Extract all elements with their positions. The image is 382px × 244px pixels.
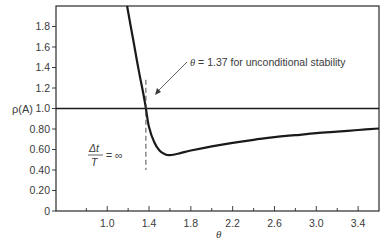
series	[56, 6, 379, 155]
y-tick-label: 0.40	[30, 164, 51, 176]
x-tick-label: 1.4	[142, 217, 157, 229]
annotation-body: = 1.37 for unconditional stability	[195, 56, 346, 68]
y-tick-label: 1.2	[35, 82, 50, 94]
y-tick-label: 0.20	[30, 184, 51, 196]
x-tick-label: 1.0	[100, 217, 115, 229]
dt-over-t-annotation: Δt T = ∞	[88, 142, 123, 168]
y-tick-label: 1.8	[35, 20, 50, 32]
y-tick-label: 1.6	[35, 41, 50, 53]
y-axis-label: ρ(A)	[12, 103, 33, 115]
x-axis: 1.01.41.82.22.63.03.4	[86, 206, 365, 229]
y-tick-label: 0	[44, 205, 50, 217]
chart: 00.200.400.600.801.01.21.41.61.8 1.01.41…	[0, 0, 382, 244]
fraction-equals-infinity: = ∞	[106, 149, 123, 161]
y-tick-label: 1.0	[35, 102, 50, 114]
stability-annotation: θ = 1.37 for unconditional stability	[155, 56, 346, 95]
annotation-arrow-line	[157, 62, 187, 92]
x-tick-label: 2.2	[225, 217, 240, 229]
y-tick-label: 1.4	[35, 61, 50, 73]
x-axis-label: θ	[216, 228, 222, 240]
fraction-denominator: T	[91, 156, 99, 168]
spectral-radius-curve	[127, 6, 379, 155]
y-axis: 00.200.400.600.801.01.21.41.61.8	[30, 20, 56, 217]
x-tick-label: 2.6	[267, 217, 282, 229]
y-tick-label: 0.60	[30, 143, 51, 155]
fraction-numerator: Δt	[88, 142, 100, 154]
annotation-text: θ = 1.37 for unconditional stability	[190, 56, 346, 68]
x-tick-label: 1.8	[184, 217, 199, 229]
x-tick-label: 3.4	[351, 217, 366, 229]
x-tick-label: 3.0	[309, 217, 324, 229]
y-tick-label: 0.80	[30, 123, 51, 135]
